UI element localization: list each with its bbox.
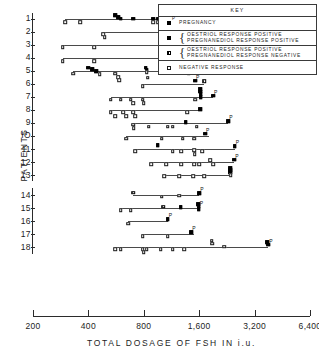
data-point-p10-2	[160, 137, 164, 141]
pregnancy-superscript-p11: P	[236, 140, 239, 145]
data-point-p7-7	[193, 98, 197, 102]
legend-brace-icon: {	[179, 49, 186, 57]
data-point-p8-6	[134, 114, 138, 118]
patient-line-16	[128, 221, 167, 222]
data-point-p2-2	[103, 35, 107, 39]
data-point-p1-5	[119, 17, 123, 21]
chart-legend: KEY PPREGNANCY{OESTRIOL RESPONSE POSITIV…	[158, 4, 317, 75]
legend-rows: PPREGNANCY{OESTRIOL RESPONSE POSITIVEPRE…	[159, 17, 316, 75]
y-axis-title: PATIENTS	[19, 110, 29, 200]
data-point-p1-1	[64, 20, 68, 24]
y-tick-6	[31, 84, 35, 85]
pregnancy-superscript-p10: P	[206, 128, 209, 133]
pregnancy-superscript-p12: P	[235, 154, 238, 159]
data-point-p4-2	[92, 59, 96, 63]
data-point-p9-2	[132, 127, 136, 131]
data-point-p8-7	[186, 111, 190, 115]
data-point-p7-11	[199, 95, 203, 99]
y-tick-4	[31, 58, 35, 59]
legend-row-1: PPREGNANCY	[159, 17, 316, 31]
data-point-p8-8	[198, 107, 202, 111]
y-tick-16	[31, 221, 35, 222]
data-point-p11-2	[156, 144, 160, 148]
data-point-p1-6	[131, 17, 135, 21]
legend-row-2: {OESTRIOL RESPONSE POSITIVEPREGNANEDIOL …	[159, 31, 316, 46]
data-point-p18-4	[142, 251, 146, 255]
data-point-p12-1	[150, 162, 154, 166]
data-point-p18-1	[113, 247, 117, 251]
y-tick-label-3: 3	[5, 40, 31, 49]
data-point-p3-2	[92, 45, 96, 49]
data-point-p12-2	[164, 162, 168, 166]
data-point-p1-2	[78, 20, 82, 24]
data-point-p18-7	[171, 247, 175, 251]
pregnancy-superscript-p15: P	[200, 201, 203, 206]
data-point-p5-1	[71, 72, 75, 76]
x-tick-label-400: 400	[81, 321, 96, 331]
patient-line-10	[126, 136, 209, 137]
pregnancy-superscript-p14: P	[200, 187, 203, 192]
data-point-p13-2	[178, 175, 182, 179]
legend-label-1: PREGNANCY	[179, 20, 316, 26]
data-point-p11-3	[171, 150, 175, 154]
pregnancy-superscript-p6: P	[196, 75, 199, 80]
y-tick-label-7: 7	[5, 92, 31, 101]
x-tick-1600	[199, 310, 200, 316]
y-tick-label-2: 2	[5, 27, 31, 36]
data-point-p5-12	[146, 76, 150, 80]
data-point-p18-10	[210, 242, 214, 246]
data-point-p12-5	[197, 162, 201, 166]
legend-marker-filled-icon	[159, 36, 179, 40]
y-tick-12	[31, 162, 35, 163]
data-point-p9-5	[171, 125, 175, 129]
y-tick-label-5: 5	[5, 66, 31, 75]
data-point-p17-1	[141, 235, 145, 239]
y-tick-label-1: 1	[5, 14, 31, 23]
data-point-p7-4	[131, 101, 135, 105]
legend-title: KEY	[159, 5, 316, 17]
legend-line: PREGNANCY	[179, 20, 216, 26]
y-tick-9	[31, 123, 35, 124]
legend-label-4: NEGATIVE RESPONSE	[179, 65, 316, 71]
x-tick-label-6400: 6,400	[299, 321, 319, 331]
data-point-p13-3	[191, 175, 195, 179]
data-point-p8-4	[124, 114, 128, 118]
x-tick-label-1600: 1,600	[188, 321, 211, 331]
patient-line-9	[133, 123, 228, 124]
legend-marker-open-icon	[159, 66, 179, 70]
x-tick-label-800: 800	[136, 321, 151, 331]
data-point-p12-3	[180, 162, 184, 166]
y-tick-8	[31, 110, 35, 111]
x-tick-400	[88, 310, 89, 316]
x-axis-title: TOTAL DOSAGE OF FSH IN i.u.	[33, 338, 310, 348]
y-tick-11	[31, 149, 35, 150]
legend-label-2: {OESTRIOL RESPONSE POSITIVEPREGNANEDIOL …	[179, 32, 316, 44]
y-tick-label-18: 18	[5, 243, 31, 252]
data-point-p5-11	[145, 70, 149, 74]
data-point-p13-1	[162, 175, 166, 179]
pregnancy-superscript-p17: P	[192, 226, 195, 231]
legend-line: PREGNANEDIOL RESPONSE POSITIVE	[187, 38, 299, 44]
data-point-p3-1	[61, 45, 65, 49]
data-point-p18-6	[159, 247, 163, 251]
data-point-p11-6	[193, 152, 197, 156]
pregnancy-superscript-p7: P	[214, 90, 217, 95]
legend-marker-half-icon	[159, 51, 179, 55]
legend-label-3: {OESTRIOL RESPONSE POSITIVEPREGNANEDIOL …	[179, 47, 316, 59]
y-tick-15	[31, 208, 35, 209]
data-point-p11-7	[200, 150, 204, 154]
data-point-p1-9	[151, 21, 155, 25]
data-point-p16-1	[127, 222, 131, 226]
data-point-p15-7	[197, 207, 201, 211]
legend-line: NEGATIVE RESPONSE	[179, 65, 244, 71]
y-tick-3	[31, 45, 35, 46]
pregnancy-superscript-p9: P	[229, 115, 232, 120]
data-point-p14-1	[131, 191, 135, 195]
data-point-p12-7	[211, 162, 215, 166]
data-point-p18-2	[119, 247, 123, 251]
data-point-p11-1	[134, 150, 138, 154]
data-point-p13-8	[229, 173, 233, 177]
data-point-p11-4	[180, 150, 184, 154]
data-point-p15-1	[119, 208, 123, 212]
patient-line-7	[111, 97, 213, 98]
